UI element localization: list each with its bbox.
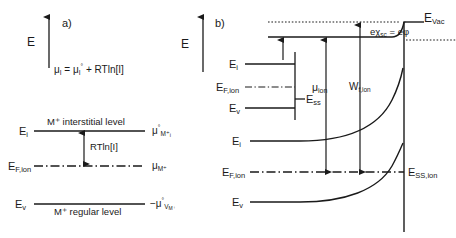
equation-equals: =	[64, 64, 70, 75]
equation-mu-i: μ	[54, 64, 60, 75]
level-subscript: v	[22, 203, 26, 212]
mu-symbol: −μ	[150, 198, 162, 209]
panel-b-surface-state-ion-label: ESS,ion	[408, 167, 437, 178]
level-subscript: Vac	[432, 17, 444, 26]
caption-text: M⁺ regular level	[54, 206, 121, 217]
arrow-subscript: f,ion	[358, 86, 370, 93]
arrow-subscript: ion	[318, 87, 327, 94]
level-subscript: ss	[313, 98, 321, 107]
mu-symbol: μ	[152, 125, 158, 136]
panel-b-surface-potential-label: eχsc = eφ	[370, 27, 409, 37]
panel-b-bulk-interstitial-label: Ei	[229, 59, 238, 70]
panel-b-bulk-valence-label: Ev	[229, 103, 240, 114]
panel-a-equation: μI = μI° + RTln[I]	[54, 65, 124, 75]
level-subscript: F,ion	[15, 165, 31, 174]
level-subscript: v	[236, 107, 240, 116]
mu-subsubscript: M⁺	[169, 205, 176, 211]
equation-rt-term: + RTln[I]	[86, 64, 124, 75]
panel-a-interstitial-left-label: Ei	[19, 126, 28, 137]
panel-b-bulk-fermi-label: EF,ion	[216, 82, 239, 93]
mu-subscript: M⁺	[160, 130, 169, 137]
energy-level-diagram-figure: E a) μI = μI° + RTln[I] Ei M⁺ interstiti…	[0, 0, 456, 238]
level-subscript: v	[239, 201, 243, 210]
caption-text: M⁺ interstitial level	[47, 116, 125, 127]
mu-subscript: M⁺	[158, 165, 167, 172]
panel-a-regular-left-label: Ev	[15, 199, 26, 210]
panel-b-wf-ion-label: Wf,ion	[349, 82, 371, 92]
level-subscript: F,ion	[229, 171, 245, 180]
mu-symbol: μ	[152, 160, 158, 171]
panel-a-regular-right-label: −μ°VM⁺	[150, 199, 176, 209]
e-phi-symbol: eφ	[398, 26, 409, 37]
level-subscript: SS,ion	[415, 171, 437, 180]
level-symbol: E	[424, 11, 432, 25]
panel-a-regular-caption: M⁺ regular level	[54, 207, 121, 217]
panel-b-band-fermi-label: EF,ion	[222, 167, 245, 178]
level-subscript: i	[26, 130, 28, 139]
panel-b-band-interstitial-label: Ei	[232, 136, 241, 147]
panel-b-vacuum-level-label: EVac	[424, 12, 444, 24]
panel-a-fermi-ion-left-label: EF,ion	[8, 161, 31, 172]
mu-subsubscript: i	[170, 132, 171, 138]
panel-a-tag: a)	[62, 18, 72, 29]
panel-b-tag: b)	[215, 18, 225, 29]
panel-a-fermi-ion-right-label: μM⁺	[152, 161, 167, 171]
mu-subscript: V	[164, 203, 168, 210]
level-subscript: F,ion	[223, 86, 239, 95]
equation-mu0: μ	[73, 64, 79, 75]
panel-b-mu-ion-label: μion	[312, 82, 327, 93]
panel-b-axis-label: E	[181, 38, 189, 50]
equals-sign: =	[389, 26, 395, 37]
panel-a-rtln-arrow-label: RTln[I]	[90, 142, 118, 152]
e-chi-subscript: sc	[380, 31, 387, 38]
panel-a-axis-label: E	[27, 36, 35, 48]
e-chi-symbol: eχ	[370, 26, 380, 37]
level-subscript: i	[236, 63, 238, 72]
level-subscript: i	[239, 140, 241, 149]
panel-a-interstitial-right-label: μ°M⁺i	[152, 126, 171, 136]
panel-a-interstitial-caption: M⁺ interstitial level	[47, 117, 125, 127]
panel-b-band-valence-label: Ev	[232, 197, 243, 208]
panel-b-ess-label: Ess	[306, 94, 321, 105]
